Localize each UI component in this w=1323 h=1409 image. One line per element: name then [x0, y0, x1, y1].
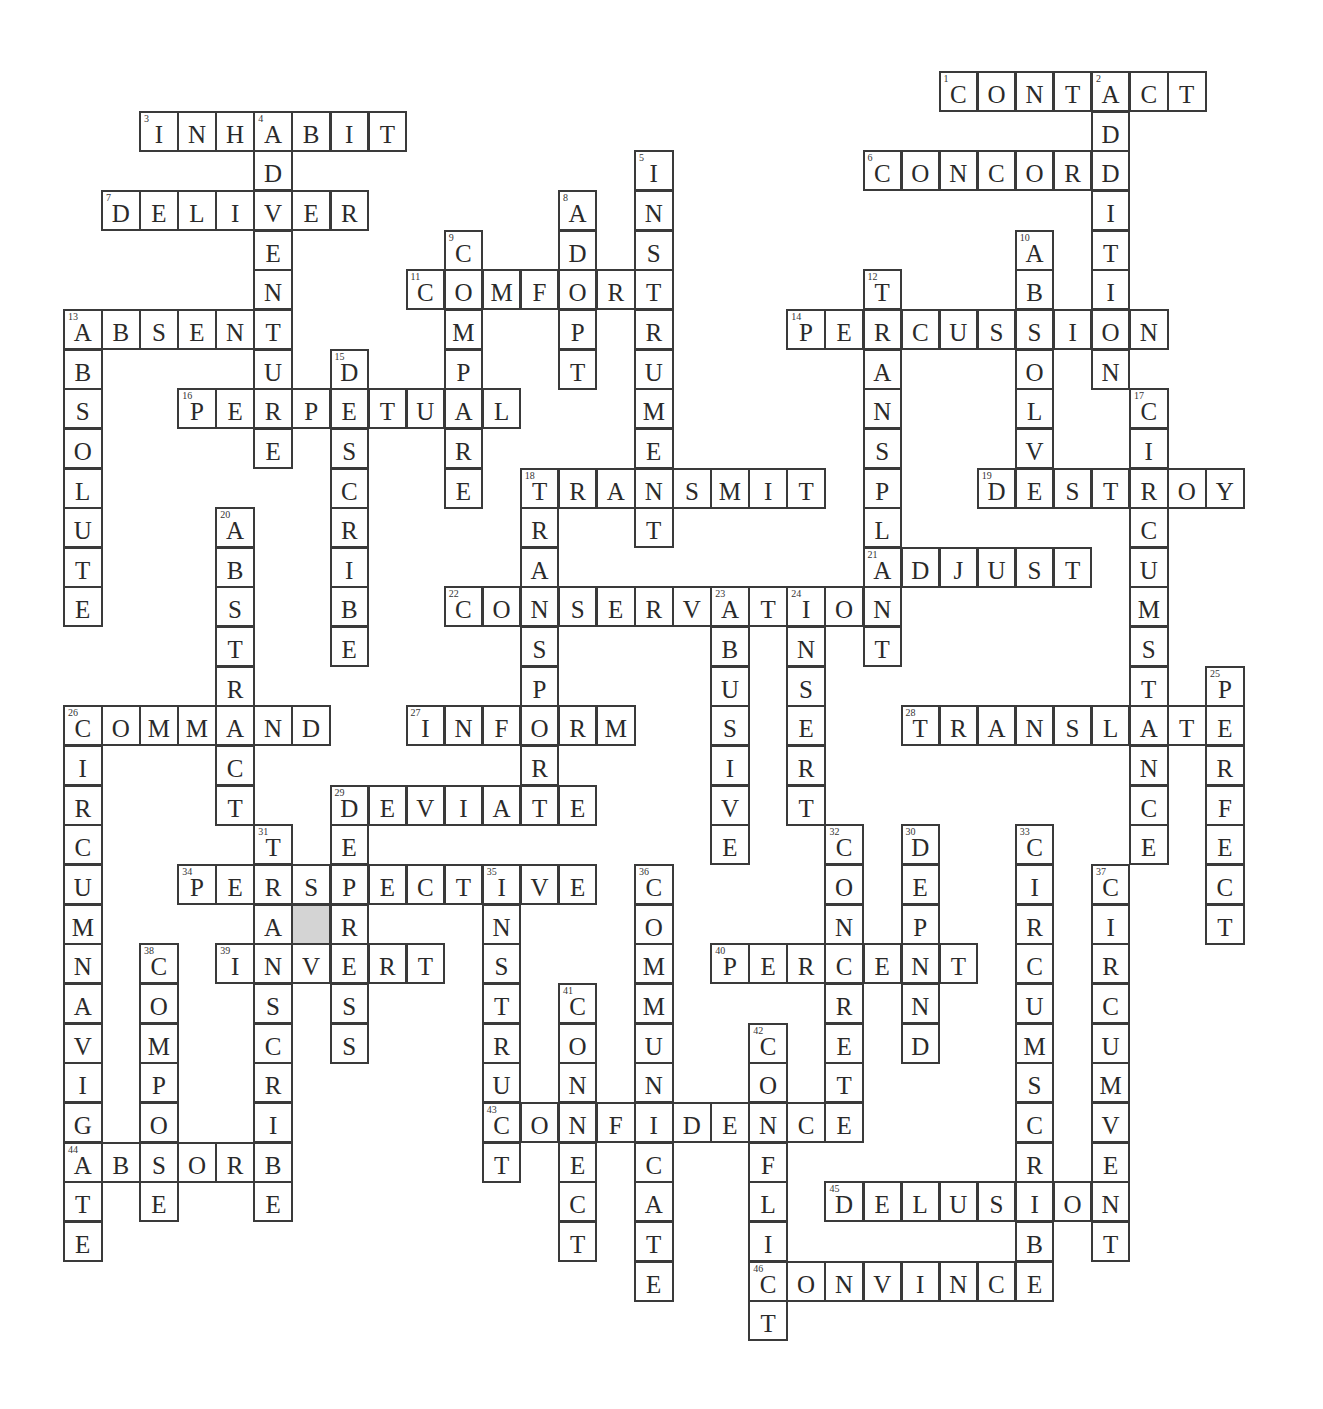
crossword-cell[interactable]: R	[786, 745, 826, 786]
crossword-cell[interactable]: I	[444, 785, 484, 826]
crossword-cell[interactable]: E	[215, 864, 255, 905]
crossword-cell[interactable]: A	[520, 547, 560, 588]
crossword-cell[interactable]: 29D	[330, 785, 370, 826]
crossword-cell[interactable]: S	[710, 705, 750, 746]
crossword-cell[interactable]: U	[939, 1181, 979, 1222]
crossword-cell[interactable]: S	[215, 586, 255, 627]
crossword-cell[interactable]: B	[253, 1142, 293, 1183]
crossword-cell[interactable]: D	[1091, 150, 1131, 191]
crossword-cell[interactable]: P	[291, 388, 331, 429]
crossword-cell[interactable]: E	[291, 190, 331, 231]
crossword-cell[interactable]: M	[1129, 586, 1169, 627]
crossword-cell[interactable]: L	[748, 1181, 788, 1222]
crossword-cell[interactable]: 30D	[901, 824, 941, 865]
crossword-cell[interactable]: S	[1015, 547, 1055, 588]
crossword-cell[interactable]: S	[863, 428, 903, 469]
crossword-cell[interactable]: O	[748, 1062, 788, 1103]
crossword-cell[interactable]: R	[786, 943, 826, 984]
crossword-cell[interactable]: I	[748, 1221, 788, 1262]
crossword-cell[interactable]: 2A	[1091, 71, 1131, 112]
crossword-cell[interactable]: T	[253, 309, 293, 350]
crossword-cell[interactable]: S	[1053, 705, 1093, 746]
crossword-cell[interactable]: I	[1015, 864, 1055, 905]
crossword-cell[interactable]: N	[863, 388, 903, 429]
crossword-cell[interactable]: T	[748, 586, 788, 627]
crossword-cell[interactable]: I	[1091, 190, 1131, 231]
crossword-cell[interactable]: S	[977, 309, 1017, 350]
crossword-cell[interactable]: C	[406, 864, 446, 905]
crossword-cell[interactable]: A	[215, 705, 255, 746]
crossword-cell[interactable]: N	[634, 1062, 674, 1103]
crossword-cell[interactable]: 41C	[558, 983, 598, 1024]
crossword-cell[interactable]: O	[901, 150, 941, 191]
crossword-cell[interactable]: R	[824, 983, 864, 1024]
crossword-cell[interactable]: S	[1053, 468, 1093, 509]
crossword-cell[interactable]: E	[558, 785, 598, 826]
crossword-cell[interactable]: 20A	[215, 507, 255, 548]
crossword-cell[interactable]: E	[63, 1221, 103, 1262]
crossword-cell[interactable]: N	[177, 111, 217, 152]
crossword-cell[interactable]: 25P	[1205, 666, 1245, 707]
crossword-cell[interactable]: I	[253, 1102, 293, 1143]
crossword-cell[interactable]: I	[1015, 1181, 1055, 1222]
crossword-cell[interactable]: O	[824, 586, 864, 627]
crossword-cell[interactable]: L	[901, 1181, 941, 1222]
crossword-cell[interactable]: U	[977, 547, 1017, 588]
crossword-cell[interactable]: S	[330, 428, 370, 469]
crossword-cell[interactable]: 31T	[253, 824, 293, 865]
crossword-cell[interactable]: A	[444, 388, 484, 429]
crossword-cell[interactable]: O	[101, 705, 141, 746]
crossword-cell[interactable]: S	[977, 1181, 1017, 1222]
crossword-cell[interactable]: T	[215, 626, 255, 667]
crossword-cell[interactable]: V	[520, 864, 560, 905]
crossword-cell[interactable]: I	[330, 111, 370, 152]
crossword-cell[interactable]: L	[1091, 705, 1131, 746]
crossword-cell[interactable]: T	[63, 547, 103, 588]
crossword-cell[interactable]: 21A	[863, 547, 903, 588]
crossword-cell[interactable]: S	[672, 468, 712, 509]
crossword-cell[interactable]: C	[786, 1102, 826, 1143]
crossword-cell[interactable]: M	[482, 269, 522, 310]
crossword-cell[interactable]: C	[1015, 943, 1055, 984]
crossword-cell[interactable]: 27I	[406, 705, 446, 746]
crossword-cell[interactable]: R	[558, 705, 598, 746]
crossword-cell[interactable]: 36C	[634, 864, 674, 905]
crossword-cell[interactable]: I	[901, 1261, 941, 1302]
crossword-cell[interactable]: D	[558, 230, 598, 271]
crossword-cell[interactable]: N	[786, 626, 826, 667]
crossword-cell[interactable]: E	[215, 388, 255, 429]
crossword-cell[interactable]: I	[215, 190, 255, 231]
crossword-cell[interactable]: E	[253, 230, 293, 271]
crossword-cell[interactable]: R	[368, 943, 408, 984]
crossword-cell[interactable]: O	[558, 1023, 598, 1064]
crossword-cell[interactable]: 9C	[444, 230, 484, 271]
crossword-cell[interactable]: N	[253, 705, 293, 746]
crossword-cell[interactable]: R	[863, 309, 903, 350]
crossword-cell[interactable]: E	[710, 824, 750, 865]
crossword-cell[interactable]: V	[710, 785, 750, 826]
crossword-cell[interactable]: E	[863, 1181, 903, 1222]
crossword-cell[interactable]: 17C	[1129, 388, 1169, 429]
crossword-cell[interactable]: R	[253, 1062, 293, 1103]
crossword-cell[interactable]: S	[139, 309, 179, 350]
crossword-cell[interactable]: 44A	[63, 1142, 103, 1183]
crossword-cell[interactable]: E	[1205, 705, 1245, 746]
crossword-cell[interactable]: 34P	[177, 864, 217, 905]
crossword-cell[interactable]: T	[634, 507, 674, 548]
crossword-cell[interactable]: O	[63, 428, 103, 469]
crossword-cell[interactable]: M	[596, 705, 636, 746]
crossword-cell[interactable]: E	[444, 468, 484, 509]
crossword-cell[interactable]: R	[482, 1023, 522, 1064]
crossword-cell[interactable]: R	[215, 1142, 255, 1183]
crossword-cell[interactable]: O	[520, 705, 560, 746]
crossword-cell[interactable]: T	[634, 1221, 674, 1262]
crossword-cell[interactable]: C	[1205, 864, 1245, 905]
crossword-cell[interactable]: D	[672, 1102, 712, 1143]
crossword-cell[interactable]: R	[634, 586, 674, 627]
crossword-cell[interactable]: F	[482, 705, 522, 746]
crossword-cell[interactable]: T	[368, 111, 408, 152]
crossword-cell[interactable]: V	[672, 586, 712, 627]
crossword-cell[interactable]: N	[634, 468, 674, 509]
crossword-cell[interactable]: U	[634, 1023, 674, 1064]
crossword-cell[interactable]: L	[177, 190, 217, 231]
